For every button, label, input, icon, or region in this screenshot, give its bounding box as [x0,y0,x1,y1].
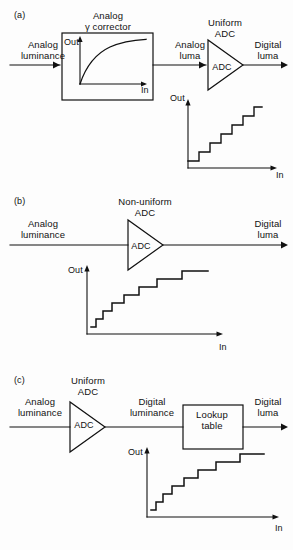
panel-b-plot-xaxis-arrow [217,331,224,336]
panel-a-graphics [0,0,293,185]
panel-c-plot-xaxis-arrow [273,514,280,519]
panel-b-graphics [0,180,293,365]
panel-c-lookup-table-box [183,405,243,449]
panel-a-gamma-box [62,33,153,100]
panel-b-plot-yaxis-arrow [84,265,89,272]
panel-b-adc-triangle [128,220,163,270]
panel-a-gamma-curve [80,39,146,84]
panel-a-output-arrowhead [281,62,288,69]
panel-a-inset-xaxis-arrow [141,81,147,86]
panel-a-plot-yaxis-arrow [185,99,190,106]
panel-b-nonuniform-staircase [91,271,208,327]
panel-a-mid-arrowhead [199,62,206,69]
panel-a-uniform-staircase [188,107,262,161]
panel-b-output-arrowhead [281,242,288,249]
panel-a-plot-xaxis-arrow [271,165,278,170]
panel-c-output-arrowhead [281,424,288,431]
panel-c-nonuniform-staircase [151,454,264,510]
panel-c-adc-triangle [70,402,105,452]
figure-root: (a) Analog luminance Analog γ corrector … [0,0,293,550]
panel-c-plot-yaxis-arrow [144,447,149,454]
panel-a-input-arrowhead [53,62,60,69]
panel-a-inset-yaxis-arrow [77,36,82,42]
panel-a-adc-triangle [208,40,243,90]
panel-c-graphics [0,360,293,550]
